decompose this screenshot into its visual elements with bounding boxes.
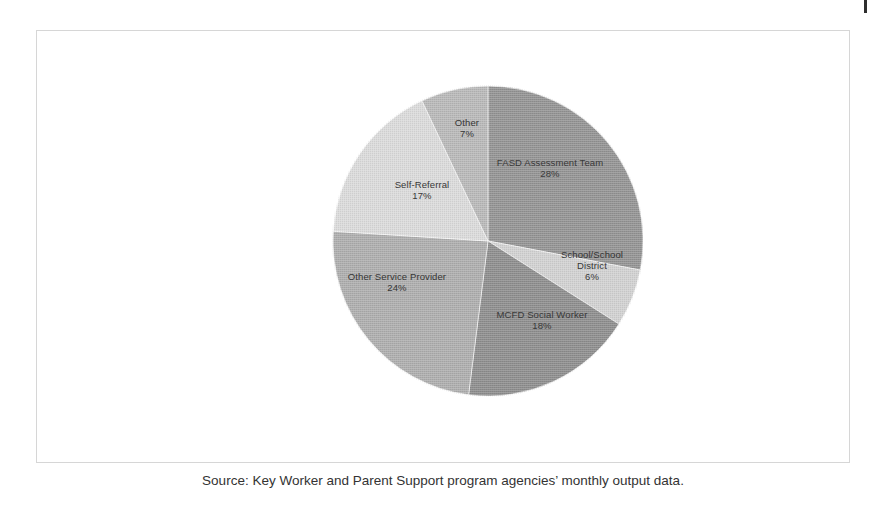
pie-slice-label-text: FASD Assessment Team [480,157,620,168]
pie-slice-label-other: Other 7% [412,117,522,139]
pie-slice-percent-text: 17% [357,190,487,201]
pie-slice-label-text-line2: District [537,260,647,271]
pie-slice-label-fasd-assessment-team: FASD Assessment Team 28% [480,157,620,179]
pie-slice-label-text: Other [412,117,522,128]
figure-frame: FASD Assessment Team 28% School/School D… [36,30,850,463]
pie-slice-label-school-school-district: School/School District 6% [537,249,647,283]
pie-slice-label-other-service-provider: Other Service Provider 24% [312,271,482,293]
page-edge-mark [864,0,867,13]
pie-slice-label-text: Other Service Provider [312,271,482,282]
pie-slice-label-text: Self-Referral [357,179,487,190]
pie-slice-label-self-referral: Self-Referral 17% [357,179,487,201]
pie-slice-label-text-line1: School/School [537,249,647,260]
figure-caption: Source: Key Worker and Parent Support pr… [36,473,850,488]
pie-slice-percent-text: 24% [312,282,482,293]
pie-slice-percent-text: 28% [480,168,620,179]
pie-chart: FASD Assessment Team 28% School/School D… [37,31,851,464]
pie-slice-percent-text: 18% [457,320,627,331]
pie-slice-percent-text: 6% [537,271,647,282]
pie-slice-label-text: MCFD Social Worker [457,309,627,320]
pie-slice-percent-text: 7% [412,128,522,139]
pie-slice-label-mcfd-social-worker: MCFD Social Worker 18% [457,309,627,331]
